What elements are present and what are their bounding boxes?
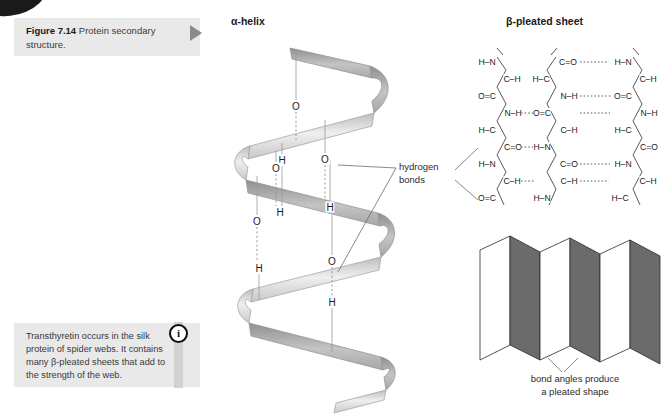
pleat-caption-line1: bond angles produce [485,373,665,386]
pleat-caption-line2: a pleated shape [485,386,665,399]
pleated-sheet-diagram [0,0,668,413]
pleat-caption-leader [548,358,578,372]
pleat-panels [480,236,660,364]
figure-page: Figure 7.14 Protein secondary structure.… [0,0,668,413]
pleated-shape-caption: bond angles produce a pleated shape [485,373,665,398]
